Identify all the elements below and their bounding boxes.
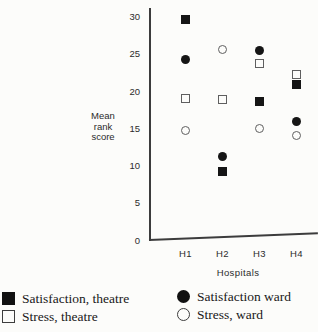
legend-left-column: Satisfaction, theatreStress, theatre [2,291,129,324]
x-tick-label-h1: H1 [173,248,199,260]
x-tick-label-h3: H3 [247,248,273,260]
filled-square-icon [2,292,15,305]
legend-item-satisfaction-theatre: Satisfaction, theatre [2,291,129,306]
x-axis-label: Hospitals [204,267,272,278]
filled-circle-icon [177,290,190,303]
open-square-icon [2,310,15,323]
scatter-plot-figure: Meanrankscore 051015202530 H1H2H3H4 Hosp… [0,0,318,332]
legend-label: Stress, theatre [22,309,98,324]
legend-label: Stress, ward [197,307,263,322]
x-axis-ticks: H1H2H3H4 [0,0,318,332]
x-tick-label-h4: H4 [284,248,310,260]
legend-item-stress-ward: Stress, ward [177,307,291,322]
x-tick-label-h2: H2 [210,248,236,260]
open-circle-icon [177,308,190,321]
legend-label: Satisfaction ward [197,289,291,304]
legend-right-column: Satisfaction wardStress, ward [177,289,291,322]
legend-item-satisfaction-ward: Satisfaction ward [177,289,291,304]
legend-label: Satisfaction, theatre [22,291,129,306]
legend-item-stress-theatre: Stress, theatre [2,309,129,324]
